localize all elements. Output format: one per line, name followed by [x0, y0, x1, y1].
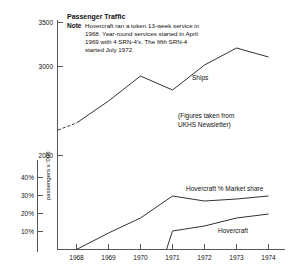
- annotation-hovercraft: Hovercraft: [218, 227, 248, 234]
- note-line-1: Hovercraft ran a token 13-week service i…: [85, 22, 200, 29]
- primary-y-axis-title: passengers x '000: [45, 151, 51, 200]
- x-tick-label-1971: 1971: [165, 254, 180, 261]
- series-market-share-line: [77, 196, 269, 250]
- series-ships-line: [77, 48, 269, 123]
- y-tick-label-3000: 3000: [39, 63, 54, 70]
- series-ships-leadin: [58, 123, 77, 130]
- x-tick-label-1972: 1972: [197, 254, 212, 261]
- x-axis: [58, 244, 286, 250]
- note-line-3: 1969 with 4 SRN-4's. The fifth SRN-4: [85, 38, 188, 45]
- x-tick-label-1968: 1968: [69, 254, 84, 261]
- x-tick-label-1974: 1974: [261, 254, 276, 261]
- annotation-ships: Ships: [192, 74, 209, 82]
- annotation-market-share: Hovercraft % Market share: [186, 185, 264, 192]
- source-line-2: UKHS Newsletter): [178, 121, 231, 129]
- x-tick-label-1970: 1970: [133, 254, 148, 261]
- note-line-4: started July 1972: [85, 46, 133, 53]
- pct-tick-label-30: 30%: [21, 192, 34, 199]
- series-market-share: [77, 196, 269, 250]
- primary-y-axis: [58, 20, 64, 250]
- pct-tick-label-10: 10%: [21, 228, 34, 235]
- pct-tick-label-40: 40%: [21, 174, 34, 181]
- x-tick-label-1973: 1973: [229, 254, 244, 261]
- x-tick-label-1969: 1969: [101, 254, 116, 261]
- chart-title: Passenger Traffic: [67, 13, 125, 21]
- source-line-1: (Figures taken from: [178, 112, 234, 120]
- pct-tick-label-20: 20%: [21, 210, 34, 217]
- chart-svg: 3500 3000 2000 passengers x '000 40% 30%…: [0, 0, 292, 271]
- note-line-2: 1968. Year-round services started in Apr…: [85, 30, 198, 37]
- percent-y-axis: [38, 160, 44, 252]
- series-ships: [58, 48, 269, 130]
- note-label: Note: [67, 22, 82, 29]
- passenger-traffic-chart: 3500 3000 2000 passengers x '000 40% 30%…: [0, 0, 292, 271]
- y-tick-label-3500: 3500: [39, 19, 54, 26]
